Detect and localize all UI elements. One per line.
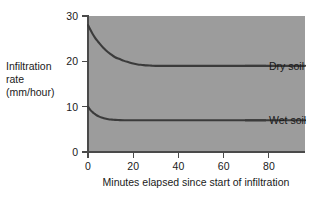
x-tick-label-60: 60 <box>218 160 230 172</box>
series-label-wet-soil: Wet soil <box>269 114 306 126</box>
plot-area-background <box>88 16 305 152</box>
x-tick-label-0: 0 <box>85 160 91 172</box>
x-tick-label-40: 40 <box>173 160 185 172</box>
y-axis-title-line-2: rate <box>6 73 70 86</box>
y-axis-title: Infiltration rate (mm/hour) <box>6 60 70 99</box>
y-axis-title-line-3: (mm/hour) <box>6 86 70 99</box>
y-tick-label-30: 30 <box>66 10 78 22</box>
y-axis-title-line-1: Infiltration <box>6 60 70 73</box>
series-label-dry-soil: Dry soil <box>269 60 304 72</box>
y-tick-label-10: 10 <box>66 101 78 113</box>
y-tick-label-0: 0 <box>72 146 78 158</box>
x-tick-label-80: 80 <box>263 160 275 172</box>
x-axis-ticks <box>88 152 269 158</box>
chart-canvas: 0 10 20 30 0 20 40 60 80 Dry soil Wet so… <box>0 0 317 201</box>
x-tick-label-20: 20 <box>127 160 139 172</box>
x-axis-title: Minutes elapsed since start of infiltrat… <box>103 176 290 188</box>
y-axis-ticks <box>82 16 88 152</box>
infiltration-rate-chart: 0 10 20 30 0 20 40 60 80 Dry soil Wet so… <box>0 0 317 201</box>
